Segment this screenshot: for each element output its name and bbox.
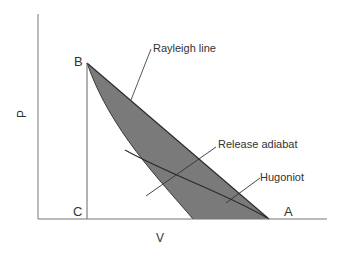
- point-c-label: C: [73, 204, 82, 219]
- rayleigh-label: Rayleigh line: [153, 42, 216, 54]
- point-b-label: B: [74, 54, 83, 69]
- release-label: Release adiabat: [218, 138, 298, 150]
- rayleigh-leader: [131, 49, 151, 100]
- point-a-label: A: [284, 204, 293, 219]
- y-axis-label: P: [15, 110, 29, 118]
- pv-diagram: B C A Rayleigh line Release adiabat Hugo…: [0, 0, 339, 259]
- hugoniot-label: Hugoniot: [260, 171, 304, 183]
- x-axis-label: V: [156, 231, 164, 245]
